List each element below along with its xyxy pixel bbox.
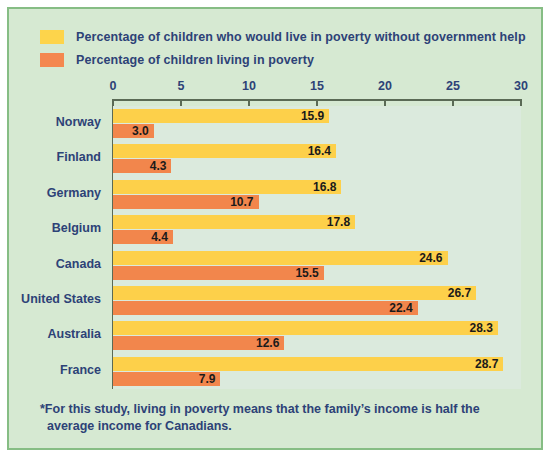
category-label-finland: Finland (0, 150, 101, 164)
x-tick-label-10: 10 (242, 79, 256, 93)
chart-card: Percentage of children who would live in… (7, 7, 543, 450)
bar-value-label: 4.3 (150, 159, 172, 173)
footnote-line-2: average income for Canadians. (40, 418, 510, 435)
bar-value-label: 10.7 (230, 195, 258, 209)
footnote-line-1: *For this study, living in poverty means… (40, 401, 510, 418)
legend-item-label: Percentage of children living in poverty (76, 53, 314, 67)
bar-row: Australia28.312.6 (9, 318, 541, 353)
yellow-swatch (40, 30, 64, 44)
x-tick-mark-0 (112, 99, 114, 106)
bar-top-canada: 24.6 (113, 251, 448, 265)
bar-value-label: 26.7 (448, 286, 476, 300)
x-tick-mark-5 (180, 99, 182, 106)
legend-item-label: Percentage of children who would live in… (76, 30, 526, 44)
x-tick-label-5: 5 (178, 79, 185, 93)
bar-value-label: 15.9 (301, 109, 329, 123)
bar-top-belgium: 17.8 (113, 215, 355, 229)
bar-value-label: 22.4 (389, 301, 417, 315)
category-label-belgium: Belgium (0, 221, 101, 235)
bar-value-label: 28.3 (470, 321, 498, 335)
x-tick-mark-25 (452, 99, 454, 106)
x-tick-mark-15 (316, 99, 318, 106)
bar-top-germany: 16.8 (113, 180, 341, 194)
category-label-germany: Germany (0, 186, 101, 200)
x-tick-label-0: 0 (110, 79, 117, 93)
category-label-united-states: United States (0, 292, 101, 306)
bar-row: France28.77.9 (9, 354, 541, 389)
bar-row: Finland16.44.3 (9, 141, 541, 176)
bar-value-label: 15.5 (295, 266, 323, 280)
bar-rows: Norway15.93.0Finland16.44.3Germany16.810… (9, 106, 541, 389)
bar-top-france: 28.7 (113, 357, 503, 371)
bar-bottom-united-states: 22.4 (113, 301, 418, 315)
bar-value-label: 28.7 (475, 357, 503, 371)
legend-item-1: Percentage of children living in poverty (40, 50, 520, 70)
x-tick-mark-30 (520, 99, 522, 106)
bar-value-label: 16.4 (308, 144, 336, 158)
legend-item-0: Percentage of children who would live in… (40, 27, 520, 47)
bar-bottom-australia: 12.6 (113, 336, 284, 350)
bar-bottom-canada: 15.5 (113, 266, 324, 280)
orange-swatch (40, 53, 64, 67)
bar-bottom-germany: 10.7 (113, 195, 259, 209)
bar-value-label: 4.4 (151, 230, 173, 244)
x-axis-tick-labels: 051015202530 (9, 79, 541, 97)
bar-value-label: 7.9 (199, 372, 221, 386)
bar-row: United States26.722.4 (9, 283, 541, 318)
x-tick-mark-10 (248, 99, 250, 106)
x-tick-label-25: 25 (446, 79, 460, 93)
bar-top-finland: 16.4 (113, 144, 336, 158)
category-label-canada: Canada (0, 257, 101, 271)
bar-bottom-finland: 4.3 (113, 159, 171, 173)
x-tick-label-20: 20 (378, 79, 392, 93)
plot-area: 051015202530 Norway15.93.0Finland16.44.3… (9, 79, 541, 391)
bar-top-norway: 15.9 (113, 109, 329, 123)
bar-value-label: 3.0 (132, 124, 154, 138)
bar-bottom-france: 7.9 (113, 372, 220, 386)
x-tick-mark-20 (384, 99, 386, 106)
bar-row: Belgium17.84.4 (9, 212, 541, 247)
bar-value-label: 24.6 (419, 251, 447, 265)
x-tick-label-15: 15 (310, 79, 324, 93)
bar-row: Norway15.93.0 (9, 106, 541, 141)
bar-row: Germany16.810.7 (9, 177, 541, 212)
category-label-france: France (0, 363, 101, 377)
category-label-australia: Australia (0, 327, 101, 341)
bar-value-label: 12.6 (256, 336, 284, 350)
x-tick-label-30: 30 (514, 79, 528, 93)
bar-top-australia: 28.3 (113, 321, 498, 335)
category-label-norway: Norway (0, 115, 101, 129)
bar-bottom-belgium: 4.4 (113, 230, 173, 244)
chart-legend: Percentage of children who would live in… (40, 27, 520, 73)
footnote: *For this study, living in poverty means… (40, 401, 510, 435)
bar-row: Canada24.615.5 (9, 248, 541, 283)
bar-value-label: 16.8 (313, 180, 341, 194)
bar-value-label: 17.8 (327, 215, 355, 229)
bar-top-united-states: 26.7 (113, 286, 476, 300)
bar-bottom-norway: 3.0 (113, 124, 154, 138)
